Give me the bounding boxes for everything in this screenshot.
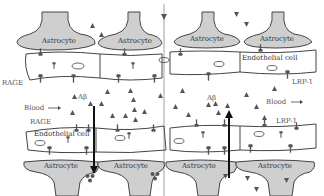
bottom-endothelial-layer [26, 124, 316, 153]
endothelial-cell-label-top: Endothelial cell [242, 55, 297, 62]
abeta-label-left: Aβ [78, 94, 87, 101]
bottom-astrocyte-label-2: Astrocyte [110, 163, 152, 170]
top-astrocyte-label-3: Astrocyte [186, 36, 228, 43]
top-astrocyte-label-1: Astrocyte [38, 38, 80, 45]
endothelial-cell-label-bottom: Endothelial cell [34, 131, 89, 138]
blood-label-right: Blood [266, 99, 286, 106]
rage-label-bottom: RAGE [30, 119, 51, 126]
bottom-astrocyte-label-3: Astrocyte [178, 163, 220, 170]
bottom-astrocyte-label-1: Astrocyte [40, 163, 82, 170]
top-astrocyte-label-4: Astrocyte [256, 36, 298, 43]
lrp1-label-bottom: LRP-1 [276, 118, 297, 125]
rage-label-top: RAGE [2, 80, 23, 87]
lrp1-label-top: LRP-1 [292, 79, 313, 86]
bottom-astrocyte-label-4: Astrocyte [254, 163, 296, 170]
top-astrocyte-label-2: Astrocyte [114, 38, 156, 45]
blood-label-left: Blood [24, 105, 44, 112]
abeta-label-right: Aβ [207, 95, 216, 102]
